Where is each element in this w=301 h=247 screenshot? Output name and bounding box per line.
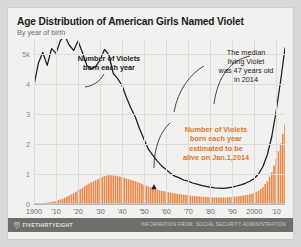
x-axis-tick-label: '80 xyxy=(205,207,214,216)
y-axis-tick-label: 5k xyxy=(8,50,30,59)
annotation-births: Number of Violets born each year xyxy=(70,54,148,72)
alive-bar xyxy=(284,125,285,205)
x-axis-tick-label: '40 xyxy=(117,207,126,216)
alive-bar xyxy=(262,187,264,204)
alive-bar xyxy=(159,190,161,204)
alive-bar xyxy=(267,181,269,204)
alive-bar xyxy=(86,185,88,204)
y-axis-tick-label: 4 xyxy=(8,80,30,89)
alive-bar xyxy=(137,182,139,204)
y-axis-tick-label: 2 xyxy=(8,140,30,149)
alive-bar xyxy=(84,186,86,204)
alive-bar xyxy=(112,176,114,205)
x-axis-tick-label: '20 xyxy=(73,207,82,216)
alive-bar xyxy=(154,189,156,204)
y-axis-tick-label: 1 xyxy=(8,170,30,179)
source-credit: INFORMATION FROM: SOCIAL SECURITY ADMINI… xyxy=(141,222,286,227)
gridline-vertical xyxy=(56,39,57,204)
alive-bar xyxy=(130,180,132,204)
chart-card: Age Distribution of American Girls Named… xyxy=(8,8,293,239)
alive-bar xyxy=(88,184,90,204)
annotation-median: The median living Violet was 47 years ol… xyxy=(204,48,288,84)
alive-bar xyxy=(273,166,275,204)
alive-bar xyxy=(156,190,158,204)
gridline-vertical xyxy=(166,39,167,204)
alive-bar xyxy=(93,181,95,204)
alive-bar xyxy=(134,181,136,204)
x-axis-line xyxy=(34,204,285,205)
x-axis-tick-label: '10 xyxy=(272,207,281,216)
alive-bar xyxy=(126,179,128,205)
alive-bar xyxy=(82,188,84,204)
y-axis-tick-label: 3 xyxy=(8,110,30,119)
alive-bar xyxy=(97,179,99,204)
alive-bar xyxy=(271,172,273,204)
alive-bar xyxy=(150,187,152,204)
x-axis-tick-label: '10 xyxy=(51,207,60,216)
alive-bar xyxy=(90,182,92,204)
alive-bar xyxy=(148,187,150,204)
x-axis-tick-label: '70 xyxy=(183,207,192,216)
alive-bar xyxy=(145,186,147,204)
gridline-horizontal xyxy=(34,114,285,115)
alive-bar xyxy=(95,180,97,204)
alive-bar xyxy=(104,176,106,204)
gridline-vertical xyxy=(34,39,35,204)
alive-bar xyxy=(119,177,121,204)
x-axis-tick-label: '60 xyxy=(161,207,170,216)
alive-bar xyxy=(115,176,117,204)
alive-bar xyxy=(132,181,134,204)
x-axis-tick-label: 2000 xyxy=(246,207,262,216)
alive-bar xyxy=(128,179,130,204)
alive-bar xyxy=(108,175,110,204)
alive-bar xyxy=(260,189,262,204)
x-axis-tick-label: '50 xyxy=(139,207,148,216)
alive-bar xyxy=(101,177,103,204)
fivethirtyeight-logo-icon xyxy=(14,222,20,229)
x-axis-tick-label: 1900 xyxy=(26,207,42,216)
alive-bar xyxy=(264,184,266,204)
x-axis-tick-label: '30 xyxy=(95,207,104,216)
gridline-horizontal xyxy=(34,174,285,175)
alive-bar xyxy=(123,178,125,204)
alive-bar xyxy=(278,151,280,204)
alive-bar xyxy=(269,177,271,204)
alive-bar xyxy=(139,183,141,204)
page-title: Age Distribution of American Girls Named… xyxy=(17,16,244,27)
alive-bar xyxy=(106,176,108,204)
alive-bar xyxy=(117,176,119,204)
alive-bar xyxy=(110,175,112,204)
page-subtitle: By year of birth xyxy=(17,28,65,37)
x-axis-tick-label: '90 xyxy=(228,207,237,216)
footer-bar: FIVETHIRTYEIGHT INFORMATION FROM: SOCIAL… xyxy=(8,218,293,232)
alive-bar xyxy=(152,188,154,204)
alive-bar xyxy=(79,189,81,204)
fivethirtyeight-logo-text: FIVETHIRTYEIGHT xyxy=(23,222,74,228)
alive-bar xyxy=(141,184,143,204)
gridline-vertical xyxy=(188,39,189,204)
gridline-horizontal xyxy=(34,84,285,85)
annotation-alive: Number of Violets born each year estimat… xyxy=(163,125,269,163)
fivethirtyeight-logo[interactable]: FIVETHIRTYEIGHT xyxy=(14,222,73,229)
